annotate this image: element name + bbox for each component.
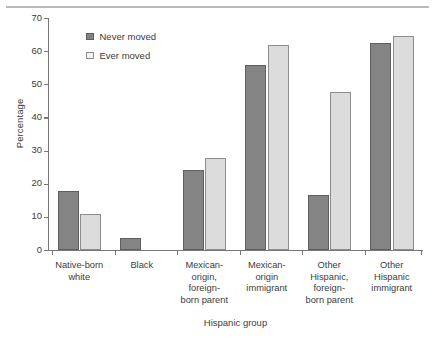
category-label: Mexican-origin,foreign-born parent xyxy=(169,260,240,306)
legend-item: Never moved xyxy=(86,31,206,42)
legend-label: Never moved xyxy=(100,31,157,42)
x-tick-mark xyxy=(240,250,241,255)
bar-never-moved xyxy=(370,43,391,250)
y-tick-label: 0 xyxy=(18,245,42,255)
category-label: OtherHispanic,foreign-born parent xyxy=(294,260,365,306)
category-label-line: white xyxy=(44,272,115,284)
category-label-line: born parent xyxy=(294,295,365,307)
bar-ever-moved xyxy=(330,92,351,250)
y-tick-label: 50 xyxy=(18,79,42,89)
chart-legend: Never movedEver moved xyxy=(86,31,206,69)
category-label-line: foreign- xyxy=(294,283,365,295)
y-axis-title: Percentage xyxy=(14,79,25,169)
y-tick-mark xyxy=(44,250,49,251)
category-label-line: Other xyxy=(294,260,365,272)
category-label-line: Mexican- xyxy=(232,260,303,272)
y-tick-label: 30 xyxy=(18,145,42,155)
bar-ever-moved xyxy=(205,158,226,250)
category-label: OtherHispanicimmigrant xyxy=(357,260,428,295)
y-tick-label: 70 xyxy=(18,13,42,23)
bar-never-moved xyxy=(58,191,79,250)
x-tick-mark xyxy=(365,250,366,255)
x-tick-mark xyxy=(177,250,178,255)
bar-chart-figure: Percentage 010203040506070 Native-bornwh… xyxy=(0,10,435,345)
category-label-line: Mexican- xyxy=(169,260,240,272)
category-label-line: foreign- xyxy=(169,283,240,295)
category-label-line: Native-born xyxy=(44,260,115,272)
category-label-line: Other xyxy=(357,260,428,272)
y-tick-label: 40 xyxy=(18,112,42,122)
bar-never-moved xyxy=(120,238,141,250)
category-label-line: origin, xyxy=(169,272,240,284)
top-divider-rule xyxy=(6,6,429,8)
category-label-line: immigrant xyxy=(357,283,428,295)
category-label-line: origin xyxy=(232,272,303,284)
y-tick-label: 10 xyxy=(18,211,42,221)
category-label: Mexican-originimmigrant xyxy=(232,260,303,295)
legend-label: Ever moved xyxy=(100,50,151,61)
category-label-line: immigrant xyxy=(232,283,303,295)
bar-never-moved xyxy=(308,195,329,250)
x-tick-mark xyxy=(421,250,422,255)
x-axis-title: Hispanic group xyxy=(48,317,423,328)
bar-ever-moved xyxy=(393,36,414,250)
legend-swatch-never-icon xyxy=(86,33,94,41)
x-axis-line xyxy=(48,250,423,251)
legend-swatch-ever-icon xyxy=(86,52,94,60)
category-label-line: Hispanic, xyxy=(294,272,365,284)
category-label: Black xyxy=(107,260,178,272)
category-label-line: born parent xyxy=(169,295,240,307)
category-label-line: Hispanic xyxy=(357,272,428,284)
x-tick-mark xyxy=(52,250,53,255)
bar-never-moved xyxy=(183,170,204,250)
y-tick-label: 60 xyxy=(18,46,42,56)
legend-item: Ever moved xyxy=(86,50,206,61)
category-label-line: Black xyxy=(107,260,178,272)
x-tick-mark xyxy=(115,250,116,255)
bar-never-moved xyxy=(245,65,266,250)
category-label: Native-bornwhite xyxy=(44,260,115,283)
bar-ever-moved xyxy=(80,214,101,250)
x-tick-mark xyxy=(302,250,303,255)
y-tick-label: 20 xyxy=(18,178,42,188)
bar-ever-moved xyxy=(268,45,289,250)
